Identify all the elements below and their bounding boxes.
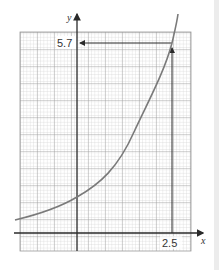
y-axis-label: y [66, 12, 72, 23]
graph: 5.7 y 2.5 x [0, 0, 219, 270]
x-axis-label: x [200, 235, 206, 246]
x-value-label: 2.5 [162, 237, 177, 249]
y-value-label: 5.7 [57, 37, 72, 49]
